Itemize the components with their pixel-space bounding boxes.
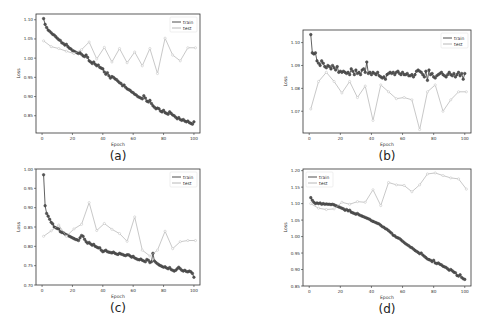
series-line-train [44,175,194,277]
x-axis-label: Epoch [111,294,125,299]
data-point-test [50,46,52,48]
data-point-test [164,37,166,39]
x-tick-label: 20 [70,136,76,141]
data-point-train [191,272,194,275]
data-point-train [426,79,429,82]
data-point-test [411,191,413,193]
y-tick-label: 0.90 [24,205,34,210]
data-point-train [453,72,456,75]
data-point-train [459,273,462,276]
data-point-test [310,203,312,205]
data-point-train [314,52,317,55]
legend-label-train: train [454,36,464,41]
data-point-train [351,70,354,73]
subplot-c: 0204060801000.700.750.800.850.900.951.00… [16,167,200,316]
y-tick-label: 0.85 [24,225,34,230]
data-point-test [187,239,189,241]
x-axis-label: Epoch [380,295,394,300]
data-point-train [47,215,50,218]
subplot-caption: (b) [379,149,396,163]
data-point-train [48,218,51,221]
data-point-train [144,97,147,100]
data-point-test [194,47,196,49]
data-point-train [348,73,351,76]
x-tick-label: 40 [100,136,106,141]
data-point-test [442,110,444,112]
data-point-train [364,71,367,74]
data-point-train [45,212,48,215]
series-line-train [44,19,194,125]
legend: traintest [170,172,197,187]
data-point-train [431,72,434,75]
y-tick-label: 1.00 [24,167,34,172]
legend-label-test: test [183,26,192,31]
data-point-test [356,201,358,203]
legend-label-train: train [183,175,193,180]
data-point-train [319,64,322,67]
y-tick-label: 1.09 [291,63,301,68]
data-point-train [102,68,105,71]
data-point-test [333,80,335,82]
y-tick-label: 1.05 [291,218,301,223]
x-tick-label: 60 [400,289,406,294]
legend-label-train: train [183,20,193,25]
x-tick-label: 60 [400,136,406,141]
data-point-test [380,204,382,206]
data-point-train [355,69,358,72]
data-point-train [425,70,428,73]
data-point-test [442,174,444,176]
y-tick-label: 0.95 [24,186,34,191]
data-point-test [434,84,436,86]
y-tick-label: 0.85 [24,113,34,118]
data-point-test [411,99,413,101]
x-tick-label: 100 [190,136,198,141]
data-point-train [82,235,85,238]
x-tick-label: 80 [431,136,437,141]
data-point-test [65,50,67,52]
x-tick-label: 100 [461,289,469,294]
data-point-test [149,255,151,257]
y-tick-label: 0.70 [24,283,34,288]
data-point-test [465,188,467,190]
data-point-test [156,72,158,74]
data-point-test [80,223,82,225]
data-point-train [44,23,47,26]
legend-label-test: test [454,42,463,47]
data-point-train [432,259,435,262]
x-tick-label: 80 [161,288,167,293]
data-point-train [376,71,379,74]
legend: traintest [170,17,197,32]
data-point-test [457,178,459,180]
data-point-train [322,62,325,65]
y-tick-label: 1.00 [291,234,301,239]
y-tick-label: 1.10 [24,17,34,22]
data-point-train [309,33,312,36]
data-point-test [103,222,105,224]
data-point-test [42,40,44,42]
y-tick-label: 0.95 [291,251,301,256]
data-point-test [65,235,67,237]
data-point-test [457,91,459,93]
data-point-test [387,91,389,93]
y-tick-label: 1.08 [291,86,301,91]
data-point-train [454,272,457,275]
subplot-caption: (a) [110,149,127,163]
data-point-test [111,228,113,230]
data-point-train [77,239,80,242]
data-point-train [330,68,333,71]
data-point-train [44,204,47,207]
data-point-test [118,232,120,234]
data-point-train [457,71,460,74]
figure-svg: 0204060801000.850.900.951.001.051.10Epoc… [0,0,483,329]
x-tick-label: 20 [70,288,76,293]
data-point-test [317,80,319,82]
data-point-train [423,76,426,79]
y-axis-label: Loss [283,76,288,87]
y-axis-label: Loss [283,222,288,233]
data-point-test [387,181,389,183]
data-point-test [349,203,351,205]
data-point-test [403,96,405,98]
data-point-train [86,56,89,59]
y-tick-label: 1.15 [291,185,301,190]
data-point-train [309,196,312,199]
